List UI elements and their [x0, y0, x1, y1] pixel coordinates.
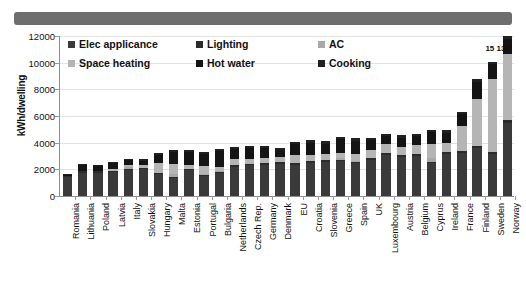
bar-column[interactable]	[93, 165, 102, 196]
bar-segment	[199, 176, 208, 196]
bar-column[interactable]	[442, 130, 451, 196]
bar-column[interactable]	[154, 153, 163, 196]
bar-column[interactable]	[78, 164, 87, 196]
bar-segment	[503, 54, 512, 121]
bar-column[interactable]	[230, 147, 239, 196]
bar-segment	[169, 178, 178, 196]
bar-segment	[336, 161, 345, 196]
x-axis-label: Belgium	[420, 203, 430, 236]
legend-item[interactable]: Cooking	[318, 57, 371, 69]
y-axis-tick-label: 12000	[15, 31, 55, 42]
x-axis-tick-mark	[242, 196, 243, 200]
bar-segment	[381, 155, 390, 196]
bar-segment	[412, 145, 421, 154]
bar-segment	[260, 165, 269, 196]
bar-column[interactable]	[139, 159, 148, 196]
legend-label: Lighting	[207, 38, 248, 50]
bar-column[interactable]	[260, 146, 269, 196]
x-axis-label: UK	[374, 203, 384, 216]
bar-column[interactable]	[412, 134, 421, 196]
y-axis-ticks: 020004000600080001000012000	[10, 0, 55, 287]
bar-column[interactable]	[124, 159, 133, 196]
bar-column[interactable]	[488, 62, 497, 196]
bar-segment	[321, 154, 330, 161]
bar-segment	[78, 173, 87, 196]
x-axis-tick-mark	[379, 196, 380, 200]
x-axis-label: France	[465, 203, 475, 231]
bar-column[interactable]	[245, 146, 254, 196]
bar-column[interactable]	[199, 152, 208, 196]
bar-segment	[215, 151, 224, 167]
bar-column[interactable]	[63, 174, 72, 196]
bar-column[interactable]	[275, 148, 284, 196]
x-axis-label: EU	[299, 203, 309, 216]
x-axis-label: Latvia	[117, 203, 127, 227]
bar-segment	[93, 173, 102, 196]
bar-segment	[503, 123, 512, 196]
x-axis-label: Sweden	[496, 203, 506, 236]
bar-column[interactable]	[306, 140, 315, 196]
x-axis-label: Norway	[511, 203, 521, 234]
bar-segment	[442, 143, 451, 152]
legend-swatch-icon	[68, 41, 75, 48]
bar-segment	[108, 172, 117, 196]
x-axis-tick-mark	[106, 196, 107, 200]
x-axis-tick-mark	[257, 196, 258, 200]
bar-segment	[260, 148, 269, 157]
legend-label: Space heating	[79, 57, 150, 69]
bar-segment	[351, 163, 360, 196]
bar-segment	[366, 160, 375, 196]
bar-column[interactable]	[215, 149, 224, 196]
bar-segment	[397, 157, 406, 196]
legend-item[interactable]: Lighting	[196, 38, 248, 50]
bar-column[interactable]	[336, 137, 345, 196]
bar-segment	[169, 152, 178, 164]
x-axis-tick-mark	[227, 196, 228, 200]
bar-column[interactable]	[290, 142, 299, 196]
bar-column[interactable]	[184, 150, 193, 196]
bar-segment	[154, 155, 163, 163]
x-axis-tick-mark	[272, 196, 273, 200]
bar-column[interactable]	[351, 138, 360, 196]
bar-segment	[412, 136, 421, 145]
bar-segment	[290, 155, 299, 162]
bar-segment	[457, 126, 466, 151]
x-axis-label: Slovenia	[329, 203, 339, 238]
bar-column[interactable]	[427, 130, 436, 196]
bar-column[interactable]	[503, 36, 512, 196]
bar-data-label: 15 130	[485, 44, 509, 53]
bar-column[interactable]	[169, 150, 178, 196]
bar-column[interactable]	[397, 135, 406, 196]
bar-segment	[366, 140, 375, 149]
bar-column[interactable]	[472, 79, 481, 196]
bar-segment	[184, 152, 193, 165]
bar-column[interactable]	[321, 141, 330, 196]
bar-segment	[154, 174, 163, 196]
y-axis-tick-label: 8000	[15, 84, 55, 95]
x-axis-label: Poland	[101, 203, 111, 231]
legend-swatch-icon	[318, 41, 325, 48]
bar-column[interactable]	[381, 134, 390, 196]
bar-column[interactable]	[108, 162, 117, 196]
x-axis-tick-mark	[333, 196, 334, 200]
bar-segment	[139, 169, 148, 196]
x-axis-tick-mark	[181, 196, 182, 200]
bar-column[interactable]	[457, 112, 466, 196]
bar-column[interactable]	[366, 138, 375, 196]
x-axis-label: Slovakia	[147, 203, 157, 237]
x-axis-tick-mark	[318, 196, 319, 200]
x-axis-label: Bulgaria	[223, 203, 233, 236]
bar-segment	[427, 132, 436, 144]
bar-segment	[488, 154, 497, 196]
bar-segment	[290, 165, 299, 196]
legend-item[interactable]: Space heating	[68, 57, 150, 69]
top-banner	[14, 12, 512, 25]
legend-item[interactable]: AC	[318, 38, 344, 50]
x-axis-label: Italy	[132, 203, 142, 220]
x-axis-tick-mark	[409, 196, 410, 200]
bar-segment	[351, 141, 360, 154]
x-axis-tick-mark	[348, 196, 349, 200]
legend-item[interactable]: Elec applicance	[68, 38, 158, 50]
x-axis-tick-mark	[90, 196, 91, 200]
legend-item[interactable]: Hot water	[196, 57, 255, 69]
